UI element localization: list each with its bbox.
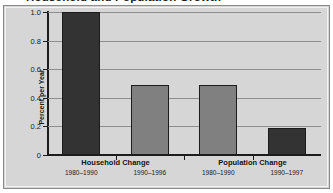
y-axis-tick-label: 0.8: [31, 36, 41, 45]
chart-title: Household and Population Growth: [26, 0, 221, 3]
y-axis-tick: [43, 41, 48, 42]
bar: [62, 12, 100, 155]
x-axis-group-label: Household Change: [81, 158, 149, 167]
y-axis-tick-label: 0.2: [31, 122, 41, 131]
x-axis-group-label: Population Change: [218, 158, 286, 167]
y-axis-tick-label: 0: [37, 151, 41, 160]
y-axis-tick: [43, 98, 48, 99]
x-axis-tick: [184, 155, 185, 160]
y-axis-tick-label: 0.4: [31, 93, 41, 102]
y-axis-tick-label: 0.6: [31, 65, 41, 74]
chart-figure: Household and Population Growth Percent …: [0, 0, 333, 193]
bar: [199, 85, 237, 155]
x-axis-period-label: 1980–1990: [65, 169, 98, 176]
y-axis-tick: [43, 69, 48, 70]
plot-area: 00.20.40.60.81.0: [47, 12, 321, 155]
x-axis-period-label: 1990–1996: [133, 169, 166, 176]
y-axis-tick: [43, 126, 48, 127]
bar: [268, 128, 306, 155]
y-axis-tick: [43, 155, 48, 156]
x-axis-period-label: 1990–1997: [270, 169, 303, 176]
bar: [131, 85, 169, 155]
y-axis-tick: [43, 12, 48, 13]
y-axis-tick-label: 1.0: [31, 8, 41, 17]
x-axis-period-label: 1980–1990: [202, 169, 235, 176]
y-axis-line: [47, 11, 49, 156]
